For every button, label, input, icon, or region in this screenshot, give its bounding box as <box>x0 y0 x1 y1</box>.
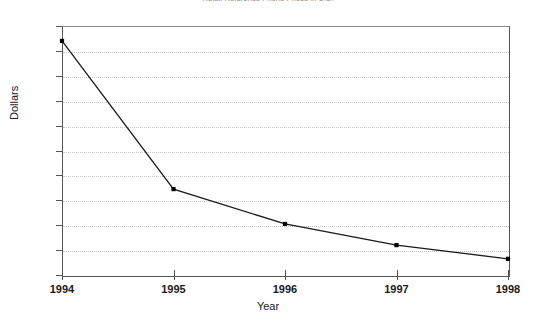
x-tick-label: 1994 <box>32 283 92 295</box>
y-tick-mark <box>56 26 62 27</box>
x-tick-mark <box>285 270 286 280</box>
gridline <box>63 102 509 103</box>
y-tick-mark <box>56 225 62 226</box>
chart-title: Retail Reference Phone Prices in U.S. <box>0 0 536 3</box>
x-tick-label: 1998 <box>478 283 536 295</box>
x-tick-mark <box>397 270 398 280</box>
y-tick-mark <box>56 175 62 176</box>
x-tick-label: 1996 <box>255 283 315 295</box>
y-tick-mark <box>56 200 62 201</box>
line-chart: Retail Reference Phone Prices in U.S. Do… <box>0 0 536 326</box>
x-tick-mark <box>508 270 509 280</box>
y-tick-mark <box>56 250 62 251</box>
gridline <box>63 152 509 153</box>
plot-area <box>62 26 510 277</box>
x-tick-mark <box>174 270 175 280</box>
y-tick-mark <box>56 126 62 127</box>
gridline <box>63 77 509 78</box>
gridline <box>63 251 509 252</box>
x-tick-mark <box>62 270 63 280</box>
x-tick-label: 1995 <box>144 283 204 295</box>
gridline <box>63 201 509 202</box>
x-axis-title: Year <box>0 300 536 312</box>
gridline <box>63 52 509 53</box>
gridline <box>63 176 509 177</box>
y-tick-mark <box>56 151 62 152</box>
y-axis-title: Dollars <box>8 86 20 120</box>
y-tick-mark <box>56 101 62 102</box>
y-tick-mark <box>56 76 62 77</box>
x-tick-label: 1997 <box>367 283 427 295</box>
gridline <box>63 226 509 227</box>
gridline <box>63 127 509 128</box>
y-tick-mark <box>56 51 62 52</box>
